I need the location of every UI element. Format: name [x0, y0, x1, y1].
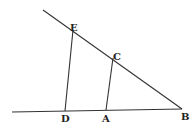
geometry-diagram: E C D A B — [0, 0, 196, 131]
label-d: D — [61, 113, 70, 124]
label-a: A — [101, 113, 110, 124]
segment-ca — [106, 58, 113, 110]
label-e: E — [70, 22, 78, 33]
label-b: B — [181, 111, 189, 122]
segment-ed — [65, 30, 73, 111]
label-c: C — [113, 51, 121, 62]
line-db — [12, 109, 182, 112]
